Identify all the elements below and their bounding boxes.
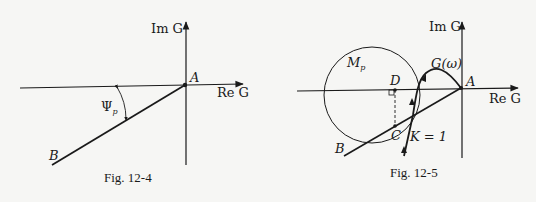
figure-12-4: Im G Re G A B Ψp Fig. 12-4 [20,21,249,185]
point-c-label: C [391,128,401,143]
curve-label: G(ω) [431,56,462,71]
figure-caption: Fig. 12-4 [104,170,152,185]
point-d-label: D [389,73,401,88]
figure-12-5: Im G Re G Mp D C K = 1 G(ω) A B Fig. 12-… [297,19,521,180]
point-a-label: A [189,70,199,85]
line-ab [344,88,461,156]
right-angle-marker [389,90,394,95]
angle-arc [117,87,126,119]
line-ab [52,85,185,165]
imag-axis-label: Im G [429,19,461,34]
real-axis [20,84,243,88]
point-a-label: A [465,74,475,89]
mp-circle [324,47,420,143]
point-b-label: B [48,148,59,163]
mp-label: Mp [346,55,365,72]
real-axis [297,88,518,91]
angle-label: Ψp [101,99,118,116]
real-axis-label: Re G [217,85,249,100]
gain-label: K = 1 [409,129,447,144]
point-d [393,88,397,92]
point-a [183,83,187,87]
imag-axis-label: Im G [151,21,183,36]
figure-caption: Fig. 12-5 [390,165,438,180]
curve-arrow-2 [409,98,415,105]
real-axis-label: Re G [489,91,521,106]
point-b-label: B [334,141,345,156]
